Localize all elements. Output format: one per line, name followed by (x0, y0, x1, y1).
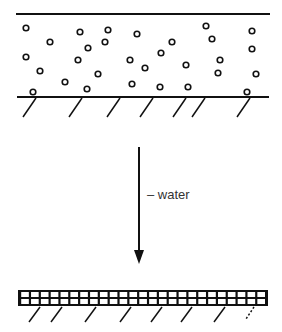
particle (183, 62, 189, 68)
grid-cell (100, 299, 108, 304)
grid-cell (70, 299, 78, 304)
particle (62, 79, 68, 85)
arrow-head-icon (134, 250, 144, 264)
grid-cell (257, 299, 265, 304)
particle (47, 39, 53, 45)
particle (253, 71, 259, 77)
grid-cell (238, 299, 246, 304)
grid-cell (21, 299, 29, 304)
grid-cell (218, 299, 226, 304)
substrate-hatching (23, 98, 250, 117)
particle (37, 68, 43, 74)
particle (127, 57, 133, 63)
grid-cell (139, 292, 147, 297)
grid-cell (179, 292, 187, 297)
particle (203, 23, 209, 29)
particle (249, 46, 255, 52)
grid-cell (149, 299, 157, 304)
grid-cell (41, 299, 49, 304)
particle (244, 89, 250, 95)
particle (158, 50, 164, 56)
grid-cell (31, 292, 39, 297)
grid-cell (169, 292, 177, 297)
grid-cell (179, 299, 187, 304)
grid-cell (139, 299, 147, 304)
grid-cell (228, 299, 236, 304)
grid-cell (198, 292, 206, 297)
particle (129, 81, 135, 87)
particle (217, 57, 223, 63)
particle (77, 29, 83, 35)
grid-cell (80, 299, 88, 304)
grid-cell (90, 292, 98, 297)
grid-cell (257, 292, 265, 297)
grid-cell (120, 299, 128, 304)
bottom-state (18, 290, 268, 322)
grid-cell (188, 292, 196, 297)
grid-cell (51, 299, 59, 304)
particle (185, 84, 191, 90)
grid-cell (159, 299, 167, 304)
grid-cell (208, 292, 216, 297)
particles (23, 23, 259, 95)
particle (84, 86, 90, 92)
diagram-canvas (0, 0, 282, 332)
grid-cell (70, 292, 78, 297)
dehydration-arrow (134, 147, 144, 264)
grid-cell (149, 292, 157, 297)
particle (105, 27, 111, 33)
grid-cell (218, 292, 226, 297)
grid-cell (159, 292, 167, 297)
grid-cell (188, 299, 196, 304)
grid-cell (41, 292, 49, 297)
particle (75, 57, 81, 63)
particle (157, 84, 163, 90)
grid-cell (110, 292, 118, 297)
particle (215, 70, 221, 76)
grid-cell (90, 299, 98, 304)
grid-cell (248, 292, 256, 297)
particle (23, 25, 29, 31)
grid-cell (80, 292, 88, 297)
particle (85, 45, 91, 51)
arrow-label: – water (147, 187, 190, 202)
particle (169, 39, 175, 45)
particle (209, 36, 215, 42)
particle (249, 28, 255, 34)
grid-cell (110, 299, 118, 304)
grid-cell (169, 299, 177, 304)
grid-cell (208, 299, 216, 304)
grid-cell (61, 299, 69, 304)
grid-cell (100, 292, 108, 297)
grid-cell (129, 299, 137, 304)
grid-cell (51, 292, 59, 297)
bottom-substrate-hatching (29, 307, 254, 322)
grid-cell (228, 292, 236, 297)
grid-cell (120, 292, 128, 297)
grid-cell (238, 292, 246, 297)
top-state (16, 14, 270, 117)
particle (23, 54, 29, 60)
grid-cell (198, 299, 206, 304)
grid-cell (31, 299, 39, 304)
particle (30, 89, 36, 95)
grid-cell (21, 292, 29, 297)
grid-cell (61, 292, 69, 297)
particle (102, 39, 108, 45)
grid-cell (248, 299, 256, 304)
particle (95, 71, 101, 77)
particle (142, 65, 148, 71)
particle (134, 31, 140, 37)
grid-cell (129, 292, 137, 297)
